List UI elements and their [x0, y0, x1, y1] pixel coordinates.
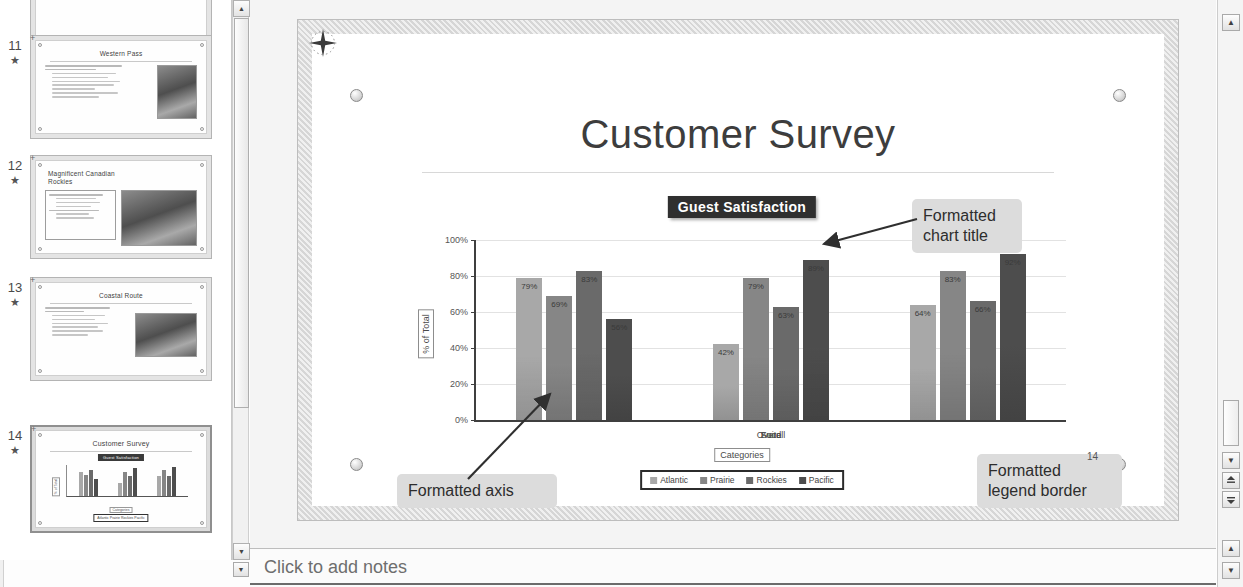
callout-line-1: Formatted — [923, 206, 1011, 226]
bar[interactable]: 63% — [773, 307, 799, 420]
bar[interactable]: 89% — [803, 260, 829, 420]
y-axis-tick-label: 60% — [424, 307, 468, 317]
thumbnail-slide-14[interactable]: 14 ★ + Customer Survey Guest Satisfactio… — [0, 425, 232, 533]
thumbnail-number: 13 — [8, 281, 22, 295]
slide-number: 14 — [1087, 451, 1098, 462]
main-scrollbar[interactable]: ▲ ▼ ▲ ▼ — [1217, 0, 1243, 587]
resize-handle-icon — [200, 521, 204, 525]
thumbnail-frame-selected[interactable]: + Customer Survey Guest Satisfaction % o… — [30, 425, 212, 533]
slide-title[interactable]: Customer Survey — [312, 112, 1164, 157]
bar[interactable]: 79% — [516, 278, 542, 420]
text-line — [52, 334, 88, 336]
thumbnail-title: Magnificent Canadian Rockies — [48, 170, 118, 186]
thumbnail-text-lines — [45, 65, 152, 119]
legend-swatch-icon — [650, 477, 657, 484]
bar-group[interactable]: 42%79%63%89%Food — [713, 240, 829, 420]
bar-value-label: 42% — [713, 348, 739, 357]
thumbnail-frame[interactable]: + Coastal Route — [30, 277, 212, 381]
thumbnail-bar — [128, 476, 132, 496]
notes-scroll-down-button[interactable]: ▼ — [233, 562, 249, 577]
legend-item[interactable]: Rockies — [747, 475, 787, 485]
bar[interactable]: 66% — [970, 301, 996, 420]
scroll-up-button[interactable]: ▲ — [233, 0, 250, 17]
bar[interactable]: 56% — [606, 319, 632, 420]
slide-resize-handle-icon[interactable] — [350, 89, 363, 102]
slide-canvas[interactable]: Customer Survey Guest Satisfaction % of … — [298, 20, 1178, 520]
thumbnail-bar — [123, 472, 127, 496]
chart-legend[interactable]: AtlanticPrairieRockiesPacific — [640, 470, 844, 490]
powerpoint-window: 10 11 ★ + — [0, 0, 1243, 587]
x-axis-title[interactable]: Categories — [714, 448, 770, 462]
thumbnail-bar — [167, 476, 171, 496]
resize-handle-icon — [38, 369, 42, 373]
thumbnail-frame[interactable]: + Western Pass — [30, 35, 212, 139]
text-line — [45, 311, 84, 313]
thumbnail-pane-scrollbar[interactable]: ▲ ▼ — [232, 0, 249, 560]
thumbnail-number-col: 11 ★ — [0, 35, 30, 139]
bar[interactable]: 92% — [1000, 254, 1026, 420]
next-slide-button[interactable] — [1222, 491, 1240, 508]
text-line — [52, 330, 103, 332]
callout-line-2: chart title — [923, 226, 1011, 246]
text-line — [49, 194, 103, 196]
bar-value-label: 89% — [803, 264, 829, 273]
chart-title[interactable]: Guest Satisfaction — [668, 196, 816, 218]
x-axis-tick-label: Overall — [476, 430, 1066, 440]
thumbnail-slide-13[interactable]: 13 ★ + Coastal Route — [0, 277, 232, 381]
legend-item[interactable]: Pacific — [799, 475, 834, 485]
scroll-up-button[interactable]: ▲ — [1222, 14, 1240, 31]
scrollbar-thumb[interactable] — [234, 18, 249, 408]
notes-pane[interactable]: Click to add notes — [250, 548, 1216, 587]
bar-value-label: 83% — [940, 275, 966, 284]
legend-item[interactable]: Atlantic — [650, 475, 688, 485]
thumbnail-title: Western Pass — [36, 50, 206, 58]
resize-handle-icon — [200, 127, 204, 131]
notes-scroll-up-button[interactable]: ▲ — [1222, 540, 1240, 557]
y-axis-tick-label: 80% — [424, 271, 468, 281]
scroll-down-button[interactable]: ▼ — [233, 543, 250, 560]
thumbnail-bar-group — [157, 465, 176, 496]
compass-move-icon[interactable] — [304, 24, 342, 62]
callout-line-1: Formatted — [988, 461, 1111, 481]
slide-resize-handle-icon[interactable] — [350, 458, 363, 471]
y-axis-tick-label: 40% — [424, 343, 468, 353]
thumbnail-frame[interactable]: + Magnificent Canadian Rockies — [30, 155, 212, 259]
thumbnail-image — [157, 65, 197, 119]
bar[interactable]: 83% — [576, 271, 602, 420]
text-line — [45, 307, 110, 309]
thumbnail-slide-11[interactable]: 11 ★ + Western Pass — [0, 35, 232, 139]
callout-formatted-legend-border: Formatted legend border — [977, 454, 1122, 508]
star-icon: ★ — [10, 444, 20, 457]
y-axis-tick-mark — [471, 420, 476, 421]
title-divider — [50, 303, 192, 304]
text-line — [52, 84, 114, 86]
text-line — [56, 206, 91, 208]
previous-slide-button[interactable] — [1222, 472, 1240, 489]
bar[interactable]: 42% — [713, 344, 739, 420]
bar[interactable]: 83% — [940, 271, 966, 420]
slide-resize-handle-icon[interactable] — [1113, 89, 1126, 102]
legend-item[interactable]: Prairie — [700, 475, 735, 485]
text-line — [52, 315, 105, 317]
resize-handle-icon — [200, 433, 204, 437]
legend-swatch-icon — [799, 477, 806, 484]
scrollbar-thumb[interactable] — [1223, 400, 1239, 446]
bar-value-label: 79% — [743, 282, 769, 291]
bar-group[interactable]: 79%69%83%56%Suite — [516, 240, 632, 420]
scroll-down-button[interactable]: ▼ — [1222, 452, 1240, 469]
thumbnail-bar — [133, 468, 137, 496]
notes-placeholder[interactable]: Click to add notes — [264, 557, 407, 578]
thumbnail-text-box — [45, 190, 116, 240]
text-line — [56, 198, 96, 200]
bar[interactable]: 79% — [743, 278, 769, 420]
slide-thumbnail-pane[interactable]: 10 11 ★ + — [0, 0, 232, 560]
notes-scroll-down-button[interactable]: ▼ — [1222, 562, 1240, 579]
bar-group[interactable]: 64%83%66%92%Overall — [910, 240, 1026, 420]
thumbnail-slide-12[interactable]: 12 ★ + Magnificent Canadian Rockies — [0, 155, 232, 259]
resize-handle-icon — [38, 433, 42, 437]
slide-edit-area[interactable]: Customer Survey Guest Satisfaction % of … — [250, 0, 1216, 548]
text-line — [52, 88, 95, 90]
bar[interactable]: 64% — [910, 305, 936, 420]
thumbnail-number-col: 13 ★ — [0, 277, 30, 381]
bar[interactable]: 69% — [546, 296, 572, 420]
